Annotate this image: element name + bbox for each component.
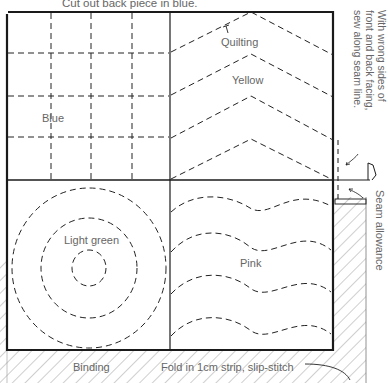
side-note: With wrong sides of front and back facin… [352, 10, 388, 110]
green-circle-quilting [12, 188, 166, 348]
label-binding: Binding [73, 362, 110, 373]
binding-hatch [0, 197, 366, 383]
label-yellow: Yellow [232, 75, 263, 86]
quilt-diagram [0, 0, 388, 383]
blue-quilting-grid [8, 13, 169, 179]
side-note-line-2: front and back facing, [364, 10, 376, 110]
label-fold: Fold in 1cm strip, slip-stitch [161, 362, 294, 373]
side-note-line-1: With wrong sides of [376, 10, 388, 110]
label-blue: Blue [42, 113, 64, 124]
side-note-line-3: sew along seam line. [352, 10, 364, 110]
label-pink: Pink [240, 258, 261, 269]
caption-top: Cut out back piece in blue. [62, 0, 198, 10]
label-quilting: Quilting [221, 37, 258, 48]
quilting-pointer [223, 25, 229, 33]
quilt-frame [7, 12, 333, 350]
seam-allowance-label: Seam allowance [373, 190, 386, 271]
label-light-green: Light green [64, 235, 119, 246]
